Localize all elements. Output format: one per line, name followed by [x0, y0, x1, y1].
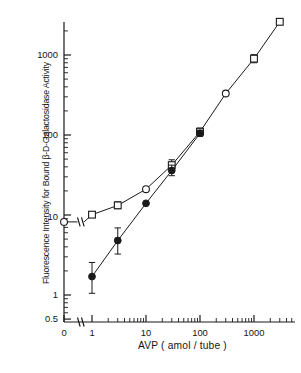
data-point-filled-circle — [143, 200, 150, 207]
plot-canvas — [0, 0, 301, 373]
series-line-open-symbols — [92, 22, 280, 215]
series-break-mark-1 — [82, 217, 85, 226]
figure-panel: Fluorescence Intensity for Bound β-D-Gal… — [0, 0, 301, 373]
data-point-open-square — [114, 202, 121, 209]
data-series-layer — [61, 18, 284, 293]
data-point-open-circle — [143, 186, 150, 193]
data-point-filled-circle — [168, 167, 175, 174]
series-break-mark-0 — [78, 217, 81, 226]
data-point-filled-circle — [197, 130, 204, 137]
data-point-open-square — [276, 18, 283, 25]
data-point-open-circle — [61, 218, 68, 225]
data-point-open-square — [89, 211, 96, 218]
data-point-filled-circle — [89, 273, 96, 280]
axes-layer — [64, 22, 295, 327]
data-point-filled-circle — [114, 237, 121, 244]
data-point-open-square — [251, 55, 258, 62]
data-point-open-circle — [222, 90, 229, 97]
